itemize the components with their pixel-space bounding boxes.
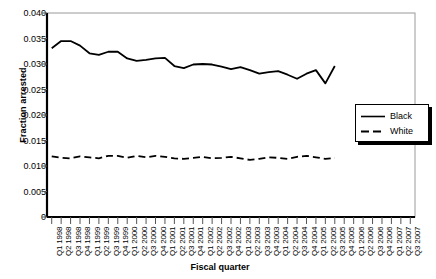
x-tick-label: Q2 2004 (291, 227, 300, 256)
x-tick-label: Q4 2003 (272, 227, 281, 256)
x-tick-label: Q3 1999 (112, 227, 121, 256)
x-tick-label: Q1 2004 (281, 227, 290, 256)
chart-container: Fraction arrested 00.0050.0100.0150.0200… (0, 0, 436, 279)
x-tick-label: Q3 2006 (376, 227, 385, 256)
legend-line-solid-icon (361, 112, 385, 121)
x-tick-label: Q2 1999 (102, 227, 111, 256)
x-tick-label: Q2 2005 (329, 227, 338, 256)
legend-label-black: Black (390, 112, 412, 121)
x-tick-label: Q3 2007 (413, 227, 422, 256)
x-tick-label: Q4 1999 (121, 227, 130, 256)
legend-item-white: White (361, 124, 413, 138)
x-tick-label: Q4 2004 (310, 227, 319, 256)
x-tick-label: Q1 2001 (168, 227, 177, 256)
x-tick-label: Q1 1999 (93, 227, 102, 256)
x-tick-label: Q2 1998 (64, 227, 73, 256)
x-tick-label: Q2 2003 (253, 227, 262, 256)
x-tick-label: Q2 2007 (404, 227, 413, 256)
x-tick-label: Q1 2002 (206, 227, 215, 256)
legend-label-white: White (390, 127, 413, 136)
x-tick-label: Q1 2007 (395, 227, 404, 256)
x-tick-label: Q3 2001 (187, 227, 196, 256)
x-tick-label: Q3 2000 (149, 227, 158, 256)
chart-legend: Black White (355, 104, 429, 142)
x-tick-label: Q4 2000 (159, 227, 168, 256)
x-tick-label: Q1 2006 (357, 227, 366, 256)
x-tick-label: Q3 2004 (300, 227, 309, 256)
x-tick-label: Q2 2000 (140, 227, 149, 256)
x-tick-label: Q4 2005 (347, 227, 356, 256)
legend-item-black: Black (361, 109, 412, 123)
x-tick-label: Q3 2005 (338, 227, 347, 256)
x-tick-label: Q3 1998 (74, 227, 83, 256)
x-tick-label: Q3 2002 (225, 227, 234, 256)
x-tick-label: Q4 2001 (196, 227, 205, 256)
x-axis-title: Fiscal quarter (140, 262, 300, 272)
x-tick-label: Q4 1998 (83, 227, 92, 256)
x-tick-label: Q1 2003 (244, 227, 253, 256)
x-tick-label: Q4 2002 (234, 227, 243, 256)
x-tick-label: Q1 1998 (55, 227, 64, 256)
x-tick-label: Q2 2006 (366, 227, 375, 256)
x-tick-label: Q3 2003 (263, 227, 272, 256)
x-tick-label: Q4 2006 (385, 227, 394, 256)
x-tick-label: Q2 2001 (178, 227, 187, 256)
legend-line-dashed-icon (361, 127, 385, 136)
x-tick-label: Q1 2005 (319, 227, 328, 256)
x-tick-label: Q1 2000 (130, 227, 139, 256)
x-tick-label: Q2 2002 (215, 227, 224, 256)
